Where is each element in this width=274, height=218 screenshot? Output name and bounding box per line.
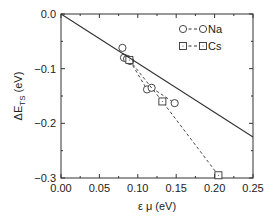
x-tick-label: 0.05	[89, 182, 110, 194]
series-reference-line	[61, 14, 253, 137]
legend: Na Cs	[179, 23, 223, 52]
legend-label-cs: Cs	[208, 40, 222, 52]
y-tick-label: −0.3	[34, 172, 56, 184]
circle-marker	[119, 44, 126, 51]
axis-ticks	[61, 14, 253, 178]
y-axis-label: ΔETS (eV)	[12, 72, 27, 121]
circle-marker	[179, 25, 186, 32]
x-axis-label: ε μ (eV)	[138, 200, 176, 212]
circle-marker	[171, 100, 178, 107]
y-tick-label: −0.2	[34, 117, 56, 129]
legend-item-na: Na	[208, 23, 223, 35]
series-na	[119, 44, 178, 106]
legend-symbol-circle	[179, 25, 206, 32]
plot-frame	[61, 14, 253, 178]
legend-label-na: Na	[208, 23, 223, 35]
tick-labels: 0.000.050.100.150.200.250.0−0.1−0.2−0.3	[34, 8, 263, 194]
x-tick-label: 0.25	[242, 182, 263, 194]
legend-symbol-square	[180, 43, 207, 50]
x-tick-label: 0.20	[204, 182, 225, 194]
x-tick-label: 0.15	[165, 182, 186, 194]
circle-marker	[199, 25, 206, 32]
legend-item-cs: Cs	[208, 40, 222, 52]
chart: 0.000.050.100.150.200.250.0−0.1−0.2−0.3 …	[0, 0, 274, 218]
x-tick-label: 0.10	[127, 182, 148, 194]
y-tick-label: 0.0	[41, 8, 56, 20]
y-tick-label: −0.1	[34, 63, 56, 75]
series-cs	[126, 56, 222, 178]
data-series	[61, 14, 253, 179]
